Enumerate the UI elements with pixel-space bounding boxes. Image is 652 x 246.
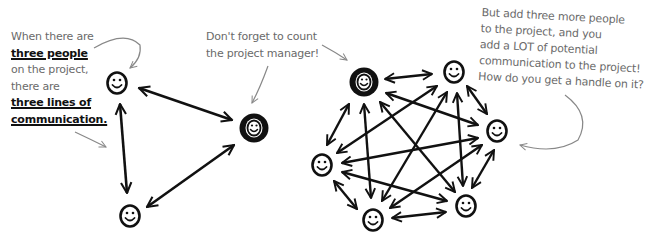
team-member-smiley-icon — [121, 206, 140, 227]
team-member-smiley-icon — [488, 121, 507, 142]
annotation-line: on the project, — [11, 62, 107, 79]
pointer-arrow-icon — [322, 45, 347, 60]
team-member-smiley-icon — [313, 155, 332, 176]
annotation-more-people: But add three more people to the project… — [478, 5, 648, 94]
annotation-line-emphasis: communication. — [11, 112, 107, 129]
edge-member1-pm — [139, 88, 232, 120]
project-manager-smiley-icon — [240, 114, 269, 143]
annotation-line: the project manager! — [206, 46, 319, 63]
annotation-line: there are — [11, 79, 107, 96]
edge-member2-pm — [147, 145, 234, 207]
project-manager-smiley-icon — [350, 68, 379, 97]
annotation-line: When there are — [11, 29, 107, 46]
triangle-edges — [120, 88, 234, 207]
annotation-project-manager: Don't forget to count the project manage… — [206, 29, 319, 62]
annotation-line-emphasis: three people — [11, 46, 107, 63]
annotation-three-people: When there are three people on the proje… — [11, 29, 107, 128]
edge-member1-member2 — [120, 104, 127, 193]
annotation-line-emphasis: three lines of — [11, 95, 107, 112]
pointer-arrow-icon — [252, 66, 268, 103]
curved-pointer-arrow-icon — [520, 95, 583, 149]
team-member-smiley-icon — [445, 62, 464, 83]
annotation-line: Don't forget to count — [206, 29, 319, 46]
team-member-smiley-icon — [457, 196, 476, 217]
team-member-smiley-icon — [108, 73, 127, 94]
pointer-arrow-icon — [75, 132, 106, 147]
team-member-smiley-icon — [364, 210, 383, 231]
